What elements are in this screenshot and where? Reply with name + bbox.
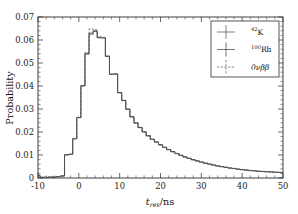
x-tick-label: 50 xyxy=(278,181,289,191)
x-axis-title-unit: /ns xyxy=(160,196,174,207)
legend-element-symbol: K xyxy=(258,28,264,37)
x-tick-label: 10 xyxy=(114,181,125,191)
y-tick-label: 0 xyxy=(29,173,34,183)
legend-element-symbol: Rh xyxy=(261,45,272,54)
legend-element-symbol: 0νββ xyxy=(251,63,270,72)
y-tick-label: 0.01 xyxy=(15,150,34,160)
x-tick-label: 20 xyxy=(155,181,166,191)
legend-mass-number: 42 xyxy=(251,26,258,32)
y-axis-title-text: Probability xyxy=(4,71,15,125)
y-tick-label: 0.04 xyxy=(15,81,34,91)
y-tick-label: 0.05 xyxy=(15,58,34,68)
y-tick-label: 0.03 xyxy=(15,104,34,114)
x-tick-label: 30 xyxy=(196,181,207,191)
chart-legend: 42K100Rh0νββ xyxy=(211,21,279,77)
y-tick-label: 0.06 xyxy=(15,35,34,45)
legend-mass-number: 100 xyxy=(251,44,261,50)
legend-label-bb0nu: 0νββ xyxy=(251,63,270,72)
y-axis-title: Probability xyxy=(4,71,15,125)
y-tick-label: 0.07 xyxy=(15,12,34,22)
y-tick-label: 0.02 xyxy=(15,127,34,137)
time-residual-probability-chart: -1001020304050 00.010.020.030.040.050.06… xyxy=(0,0,298,214)
chart-figure: -1001020304050 00.010.020.030.040.050.06… xyxy=(0,0,298,214)
x-tick-label: 40 xyxy=(237,181,248,191)
x-tick-label: 0 xyxy=(76,181,81,191)
